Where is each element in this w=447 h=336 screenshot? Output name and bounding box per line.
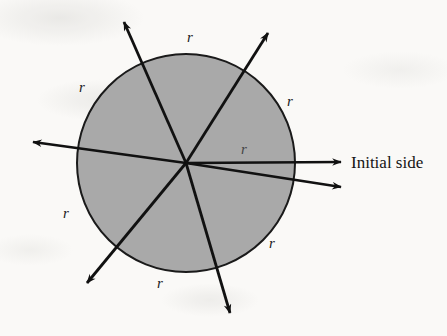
r-label-bottom: r <box>157 275 163 291</box>
r-label-upper-left: r <box>79 79 85 95</box>
r-label-lower-right: r <box>269 235 275 251</box>
circle-radii-diagram: r r r r r r r Initial side <box>0 0 447 336</box>
r-label-upper-right: r <box>287 93 293 109</box>
r-label-top: r <box>187 29 193 45</box>
r-label-center-right: r <box>241 141 247 157</box>
figure-canvas: r r r r r r r Initial side <box>0 0 447 336</box>
r-label-lower-left: r <box>63 205 69 221</box>
initial-side-ray <box>186 162 341 163</box>
initial-side-caption: Initial side <box>351 153 423 172</box>
